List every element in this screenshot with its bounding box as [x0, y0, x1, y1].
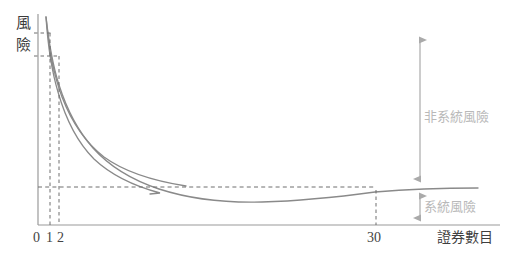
unsystematic-risk-label: 非系統風險 [424, 110, 489, 123]
risk-diversification-chart: 風險 風 險 證券數目 0 1 2 30 非系統風險 系統風險 [0, 0, 522, 266]
x-tick-label-1: 1 [46, 231, 53, 245]
x-tick-label-2: 2 [57, 231, 64, 245]
chart-canvas [0, 0, 522, 266]
y-axis-label: 風險 風 險 [14, 13, 32, 57]
x-axis-label: 證券數目 [437, 231, 493, 245]
y-axis-label-char-b: 險 [14, 35, 32, 57]
x-tick-label-30: 30 [367, 231, 381, 245]
y-axis-label-char-a: 風 [14, 13, 32, 35]
systematic-risk-label: 系統風險 [424, 200, 476, 213]
total-risk-curve-main [46, 17, 478, 202]
x-tick-label-0: 0 [33, 231, 40, 245]
